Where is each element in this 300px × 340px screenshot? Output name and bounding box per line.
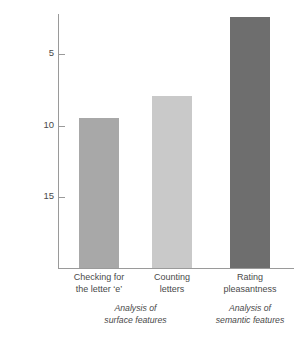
x-axis-baseline	[58, 268, 294, 269]
y-axis-tick: 10	[59, 126, 65, 127]
group-annotation-surface-line1: Analysis of	[81, 303, 191, 315]
x-axis-label-2-line2: pleasantness	[202, 284, 298, 296]
group-annotation-semantic-line1: Analysis of	[195, 303, 300, 315]
y-axis-tick: 5	[59, 54, 65, 55]
bar-chart: Mean number of words recalled 15 10 5 Ch…	[0, 0, 300, 340]
y-axis-tick-label: 5	[49, 47, 54, 58]
y-axis-line	[58, 14, 59, 269]
group-annotations: Analysis of surface features Analysis of…	[58, 303, 294, 333]
y-axis-tick-label: 15	[43, 190, 54, 201]
group-annotation-semantic-line2: semantic features	[195, 315, 300, 327]
bar-counting-letters	[152, 96, 192, 268]
group-annotation-surface-line2: surface features	[81, 315, 191, 327]
group-annotation-semantic: Analysis of semantic features	[195, 303, 300, 326]
group-annotation-surface: Analysis of surface features	[81, 303, 191, 326]
y-axis-tick-label: 10	[43, 119, 54, 130]
plot-area: 15 10 5	[58, 14, 294, 269]
x-axis-label-2: Rating pleasantness	[202, 272, 298, 295]
bar-rating-pleasantness	[230, 17, 270, 268]
x-axis-category-labels: Checking for the letter ‘e’ Counting let…	[58, 272, 294, 298]
y-axis-tick: 15	[59, 197, 65, 198]
bar-checking-for-the-letter-e	[79, 118, 119, 268]
x-axis-label-2-line1: Rating	[202, 272, 298, 284]
